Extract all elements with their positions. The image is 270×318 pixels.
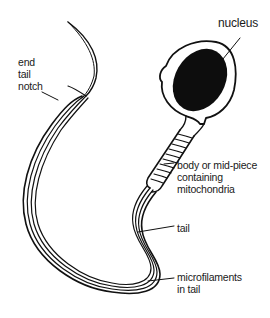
label-end-tail-notch: end tail notch [18, 56, 43, 92]
leader-mid-piece [164, 163, 174, 164]
label-line: notch [18, 80, 43, 92]
label-line: microfilaments [177, 271, 242, 283]
label-line: in tail [177, 283, 242, 295]
label-line: body or mid-piece [177, 159, 257, 171]
label-tail: tail [177, 222, 190, 234]
label-microfilaments: microfilaments in tail [177, 271, 242, 295]
label-tail-text: tail [177, 222, 190, 234]
label-mid-piece: body or mid-piece containing mitochondri… [177, 159, 257, 195]
tail [23, 86, 160, 293]
label-line: tail [18, 68, 43, 80]
label-nucleus: nucleus [218, 17, 258, 29]
leader-tail [138, 226, 174, 232]
leader-end-tail-notch [42, 92, 58, 100]
label-nucleus-text: nucleus [218, 17, 258, 29]
label-line: containing [177, 171, 257, 183]
label-line: end [18, 56, 43, 68]
label-line: mitochondria [177, 183, 257, 195]
